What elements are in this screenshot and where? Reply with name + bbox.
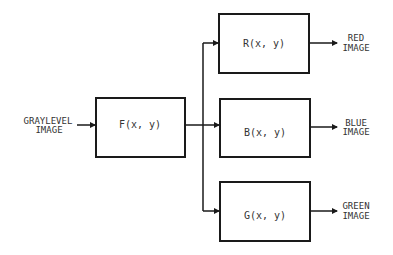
- block-r-label: R(x, y): [243, 38, 285, 49]
- block-b: B(x, y): [220, 99, 310, 157]
- block-g: G(x, y): [220, 182, 310, 241]
- block-g-label: G(x, y): [244, 210, 286, 221]
- output-green-line2: IMAGE: [342, 211, 369, 221]
- output-label-blue: BLUE IMAGE: [342, 118, 369, 137]
- output-red-line2: IMAGE: [342, 43, 369, 53]
- block-f: F(x, y): [96, 98, 185, 157]
- block-b-label: B(x, y): [244, 127, 286, 138]
- output-green-line1: GREEN: [342, 201, 369, 211]
- block-r: R(x, y): [219, 14, 309, 73]
- output-blue-line2: IMAGE: [342, 127, 369, 137]
- output-label-red: RED IMAGE: [342, 33, 369, 53]
- input-label-line2: IMAGE: [35, 125, 62, 135]
- input-label: GRAYLEVEL IMAGE: [24, 116, 73, 135]
- block-diagram: GRAYLEVEL IMAGE F(x, y) R(x, y) B(x, y) …: [0, 0, 393, 255]
- output-label-green: GREEN IMAGE: [342, 201, 369, 221]
- output-red-line1: RED: [348, 33, 364, 43]
- block-f-label: F(x, y): [119, 119, 161, 130]
